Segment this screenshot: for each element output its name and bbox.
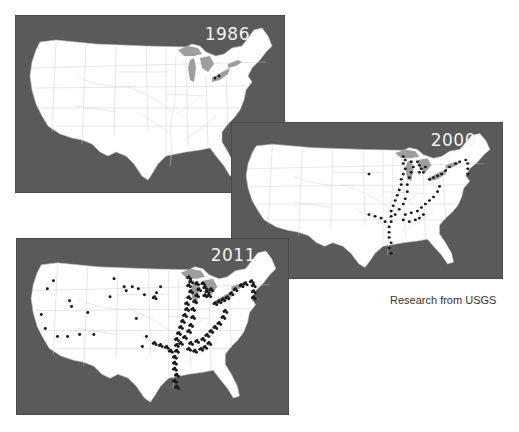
sighting-marker bbox=[193, 317, 196, 320]
sighting-marker bbox=[406, 190, 409, 193]
sighting-marker bbox=[172, 356, 175, 359]
sighting-marker bbox=[40, 313, 43, 316]
sighting-marker bbox=[420, 206, 423, 209]
sighting-marker bbox=[402, 203, 405, 206]
sighting-marker bbox=[390, 241, 393, 244]
sighting-marker bbox=[70, 305, 73, 308]
sighting-marker bbox=[204, 334, 207, 337]
sighting-marker bbox=[408, 220, 411, 223]
sighting-marker bbox=[177, 375, 180, 378]
sighting-marker bbox=[178, 342, 181, 345]
sighting-marker bbox=[185, 337, 188, 340]
sighting-marker bbox=[202, 286, 205, 289]
sighting-marker bbox=[402, 173, 405, 176]
sighting-marker bbox=[374, 215, 377, 218]
sighting-marker bbox=[225, 296, 228, 299]
sighting-marker bbox=[454, 162, 457, 165]
sighting-marker bbox=[212, 302, 215, 305]
sighting-marker bbox=[251, 284, 254, 287]
sighting-marker bbox=[186, 330, 189, 333]
sighting-marker bbox=[184, 308, 187, 311]
sighting-marker bbox=[398, 208, 401, 211]
sighting-marker bbox=[408, 176, 411, 179]
sighting-marker bbox=[172, 362, 175, 365]
sighting-marker bbox=[206, 342, 209, 345]
sighting-marker bbox=[188, 280, 191, 283]
sighting-marker bbox=[195, 301, 198, 304]
sighting-marker bbox=[368, 213, 371, 216]
sighting-marker bbox=[66, 335, 69, 338]
sighting-marker bbox=[185, 315, 188, 318]
sighting-marker bbox=[174, 374, 177, 377]
sighting-marker bbox=[215, 303, 218, 306]
sighting-marker bbox=[192, 300, 195, 303]
sighting-marker bbox=[189, 349, 192, 352]
sighting-marker bbox=[180, 320, 183, 323]
sighting-marker bbox=[135, 317, 138, 320]
sighting-marker bbox=[243, 282, 246, 285]
sighting-marker bbox=[221, 316, 224, 319]
sighting-marker bbox=[191, 325, 194, 328]
sighting-marker bbox=[189, 297, 192, 300]
sighting-marker bbox=[176, 332, 179, 335]
sighting-marker bbox=[219, 323, 222, 326]
sighting-marker bbox=[158, 344, 161, 347]
sighting-marker bbox=[440, 173, 443, 176]
sighting-marker bbox=[189, 331, 192, 334]
sighting-marker bbox=[241, 285, 244, 288]
sighting-marker bbox=[464, 159, 467, 162]
sighting-marker bbox=[195, 351, 198, 354]
sighting-marker bbox=[246, 283, 249, 286]
sighting-marker bbox=[211, 289, 214, 292]
sighting-marker bbox=[171, 351, 174, 354]
sighting-marker bbox=[428, 178, 431, 181]
sighting-marker bbox=[420, 167, 423, 170]
sighting-marker bbox=[412, 166, 415, 169]
sighting-marker bbox=[164, 346, 167, 349]
sighting-marker bbox=[200, 282, 203, 285]
sighting-marker bbox=[125, 289, 128, 292]
sighting-marker bbox=[202, 294, 205, 297]
year-label-2000: 2000 bbox=[431, 130, 476, 150]
sighting-marker bbox=[145, 335, 148, 338]
sighting-marker bbox=[466, 167, 469, 170]
sighting-marker bbox=[167, 347, 170, 350]
sighting-marker bbox=[186, 284, 189, 287]
sighting-marker bbox=[177, 345, 180, 348]
sighting-marker bbox=[239, 284, 242, 287]
sighting-marker bbox=[215, 327, 218, 330]
sighting-marker bbox=[206, 294, 209, 297]
sighting-marker bbox=[422, 213, 425, 216]
sighting-marker bbox=[198, 348, 201, 351]
sighting-marker bbox=[199, 289, 202, 292]
sighting-marker bbox=[86, 311, 89, 314]
sighting-marker bbox=[400, 183, 403, 186]
sighting-marker bbox=[191, 343, 194, 346]
sighting-marker bbox=[175, 369, 178, 372]
sighting-marker bbox=[402, 155, 405, 158]
sighting-marker bbox=[214, 77, 217, 80]
sighting-marker bbox=[177, 339, 180, 342]
sighting-marker bbox=[202, 346, 205, 349]
sighting-marker bbox=[188, 342, 191, 345]
sighting-marker bbox=[186, 296, 189, 299]
sighting-marker bbox=[390, 252, 393, 255]
sighting-marker bbox=[187, 309, 190, 312]
sighting-marker bbox=[194, 282, 197, 285]
us-landmass bbox=[31, 251, 276, 402]
sighting-marker bbox=[191, 281, 194, 284]
sighting-marker bbox=[209, 295, 212, 298]
sighting-marker bbox=[181, 327, 184, 330]
sighting-marker bbox=[396, 194, 399, 197]
sighting-marker bbox=[184, 302, 187, 305]
sighting-marker bbox=[418, 164, 421, 167]
sighting-marker bbox=[182, 314, 185, 317]
sighting-marker bbox=[251, 296, 254, 299]
sighting-marker bbox=[175, 363, 178, 366]
sighting-marker bbox=[155, 343, 158, 346]
sighting-marker bbox=[218, 75, 221, 78]
sighting-marker bbox=[183, 321, 186, 324]
sighting-marker bbox=[181, 343, 184, 346]
sighting-marker bbox=[209, 343, 212, 346]
sighting-marker bbox=[123, 285, 126, 288]
